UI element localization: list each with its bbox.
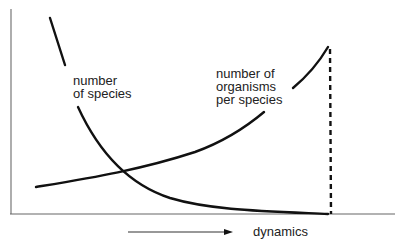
- diagram-canvas: [0, 0, 404, 245]
- arrow-right-icon: [224, 229, 233, 235]
- dashed-limit-line: [330, 49, 331, 214]
- x-axis-label: dynamics: [253, 225, 308, 238]
- organisms-label: number of organisms per species: [216, 67, 282, 106]
- species-curve-top: [50, 18, 65, 65]
- species-curve: [78, 107, 328, 214]
- organisms-curve-top: [293, 47, 328, 88]
- species-label: number of species: [73, 74, 132, 100]
- organisms-curve: [36, 112, 264, 187]
